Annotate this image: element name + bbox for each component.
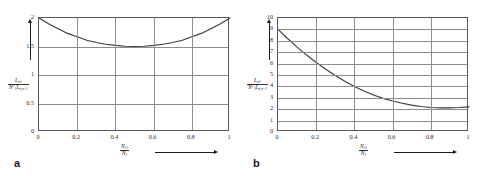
gridline-horizontal xyxy=(278,29,467,30)
x-axis-direction-arrow-a xyxy=(155,152,215,153)
gridline-vertical xyxy=(192,18,193,130)
x-tick-label: 0 xyxy=(267,134,287,140)
gridline-horizontal xyxy=(278,52,467,53)
x-axis-label-b: N11 N1 xyxy=(359,144,368,158)
y-label-denominator-b: N21Lσ,σ=1 xyxy=(247,85,268,91)
gridline-vertical xyxy=(431,18,432,130)
y-tick-label: 5 xyxy=(255,71,273,77)
x-tick-label: 0.2 xyxy=(66,134,86,140)
x-tick-label: 0.6 xyxy=(143,134,163,140)
gridline-vertical xyxy=(316,18,317,130)
y-tick-label: 1 xyxy=(255,117,273,123)
x-tick-label: 1 xyxy=(219,134,239,140)
y-tick-label: 2 xyxy=(255,105,273,111)
x-tick-label: 0.8 xyxy=(181,134,201,140)
x-tick-label: 0.4 xyxy=(104,134,124,140)
x-label-denominator-a: N1 xyxy=(120,151,129,157)
x-tick-label: 1 xyxy=(458,134,478,140)
gridline-horizontal xyxy=(278,86,467,87)
y-axis-direction-arrow-a xyxy=(30,22,31,60)
gridline-vertical xyxy=(354,18,355,130)
x-tick-label: 0 xyxy=(28,134,48,140)
gridline-horizontal xyxy=(39,104,228,105)
y-tick-label: 6 xyxy=(255,60,273,66)
y-label-den-sub-a: 1 xyxy=(14,87,16,91)
y-label-num-sub-a: σ1 xyxy=(18,80,21,84)
x-label-den-sub-a: 1 xyxy=(125,153,127,157)
y-tick-label: 8 xyxy=(255,37,273,43)
gridline-vertical xyxy=(77,18,78,130)
plot-a-wrapper: 00.511.5200.20.40.60.81 xyxy=(38,17,229,131)
y-axis-label-a: Lσ1 N21Lσ,σ=1 xyxy=(8,78,29,92)
y-axis-label-b: Lσ1 N21Lσ,σ=1 xyxy=(247,78,268,92)
gridline-vertical xyxy=(393,18,394,130)
gridline-horizontal xyxy=(278,64,467,65)
y-label-den-sub-b: 1 xyxy=(253,87,255,91)
panel-b: 01234567891000.20.40.60.81 Lσ1 N21Lσ,σ=1… xyxy=(239,0,478,181)
gridline-horizontal xyxy=(278,121,467,122)
x-tick-label: 0.8 xyxy=(420,134,440,140)
y-tick-label: 7 xyxy=(255,48,273,54)
plot-b-wrapper: 01234567891000.20.40.60.81 xyxy=(277,17,468,131)
x-label-num-sub-a: 11 xyxy=(125,146,128,150)
gridline-vertical xyxy=(115,18,116,130)
data-curve xyxy=(39,18,230,47)
plot-area-b xyxy=(277,17,468,131)
panel-letter-a: a xyxy=(14,157,20,169)
x-label-den-sub-b: 1 xyxy=(364,153,366,157)
x-axis-label-fraction-b: N11 N1 xyxy=(359,144,368,158)
y-label-den-tail-sub-b: σ,σ=1 xyxy=(258,87,266,91)
x-axis-direction-arrow-b xyxy=(394,152,454,153)
y-tick-label: 1 xyxy=(16,71,34,77)
y-axis-label-fraction-a: Lσ1 N21Lσ,σ=1 xyxy=(8,78,29,92)
y-label-num-sub-b: σ1 xyxy=(257,80,260,84)
y-axis-direction-arrow-b xyxy=(269,22,270,60)
gridline-vertical xyxy=(154,18,155,130)
plot-area-a xyxy=(38,17,229,131)
y-axis-label-fraction-b: Lσ1 N21Lσ,σ=1 xyxy=(247,78,268,92)
y-tick-label: 0.5 xyxy=(16,100,34,106)
x-label-num-sub-b: 11 xyxy=(364,146,367,150)
x-tick-label: 0.6 xyxy=(382,134,402,140)
x-label-denominator-b: N1 xyxy=(359,151,368,157)
gridline-horizontal xyxy=(278,41,467,42)
x-tick-label: 0.4 xyxy=(343,134,363,140)
gridline-horizontal xyxy=(278,98,467,99)
y-tick-label: 9 xyxy=(255,25,273,31)
x-axis-label-a: N11 N1 xyxy=(120,144,129,158)
y-label-den-tail-sub-a: σ,σ=1 xyxy=(19,87,27,91)
panel-letter-b: b xyxy=(253,157,260,169)
y-tick-label: 1.5 xyxy=(16,43,34,49)
x-tick-label: 0.2 xyxy=(305,134,325,140)
panel-a: 00.511.5200.20.40.60.81 Lσ1 N21Lσ,σ=1 N1… xyxy=(0,0,239,181)
x-axis-label-fraction-a: N11 N1 xyxy=(120,144,129,158)
y-label-denominator-a: N21Lσ,σ=1 xyxy=(8,85,29,91)
gridline-horizontal xyxy=(39,47,228,48)
gridline-horizontal xyxy=(278,109,467,110)
gridline-horizontal xyxy=(39,75,228,76)
gridline-horizontal xyxy=(278,75,467,76)
figure-container: 00.511.5200.20.40.60.81 Lσ1 N21Lσ,σ=1 N1… xyxy=(0,0,478,181)
y-tick-label: 3 xyxy=(255,94,273,100)
